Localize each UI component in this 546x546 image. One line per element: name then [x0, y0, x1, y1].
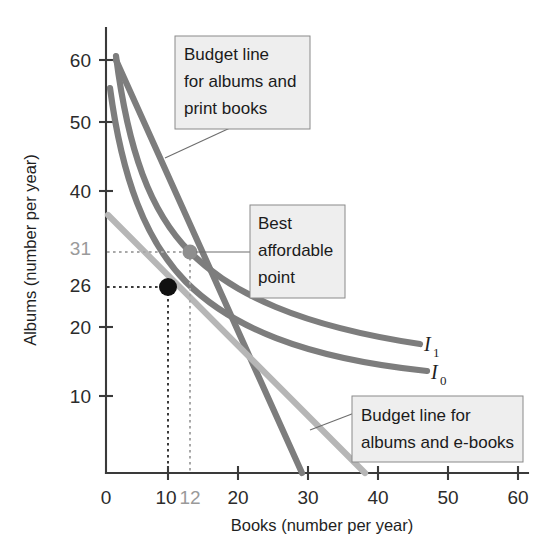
callout-best-line1: Best — [258, 214, 292, 233]
callout-budget-print-books: Budget line for albums and print books — [165, 36, 310, 158]
callout-ebook-line2: albums and e-books — [361, 433, 514, 452]
curve-label-i0-base: I — [430, 361, 439, 383]
x-tick-label-50: 50 — [437, 487, 458, 508]
callout-best-line3: point — [258, 268, 295, 287]
y-tick-labels: 60 50 40 31 26 20 10 — [70, 50, 91, 407]
x-tick-label-10: 10 — [155, 487, 176, 508]
y-axis-title: Albums (number per year) — [21, 154, 39, 346]
x-tick-labels: 0 10 12 20 30 40 50 60 — [101, 487, 529, 508]
curve-label-i1: I 1 — [423, 333, 440, 360]
callout-print-line2: for albums and — [184, 72, 296, 91]
curve-label-i0: I 0 — [430, 361, 447, 388]
callout-ebook-line1: Budget line for — [361, 406, 471, 425]
chart-svg: 60 50 40 31 26 20 10 0 10 12 20 30 40 50… — [0, 0, 546, 546]
x-tick-label-12: 12 — [179, 487, 200, 508]
callout-print-line1: Budget line — [184, 45, 269, 64]
y-tick-label-40: 40 — [70, 181, 91, 202]
best-affordable-point-dot — [183, 245, 198, 260]
optimum-point-dot — [159, 278, 177, 296]
x-axis-title: Books (number per year) — [231, 516, 414, 534]
callout-best-line2: affordable — [258, 241, 333, 260]
y-tick-label-26: 26 — [70, 275, 91, 296]
x-tick-label-60: 60 — [507, 487, 528, 508]
y-tick-label-60: 60 — [70, 50, 91, 71]
y-tick-label-20: 20 — [70, 317, 91, 338]
x-tick-label-30: 30 — [297, 487, 318, 508]
callout-print-line3: print books — [184, 99, 267, 118]
callout-print-leader — [165, 128, 230, 158]
x-tick-label-0: 0 — [101, 487, 112, 508]
curve-label-i1-base: I — [423, 333, 432, 355]
x-tick-label-20: 20 — [227, 487, 248, 508]
curve-label-i0-subscript: 0 — [440, 373, 447, 388]
y-tick-label-31: 31 — [70, 238, 91, 259]
y-tick-label-50: 50 — [70, 112, 91, 133]
figure-budget-lines-indifference-curves: 60 50 40 31 26 20 10 0 10 12 20 30 40 50… — [0, 0, 546, 546]
curve-label-i1-subscript: 1 — [433, 345, 440, 360]
y-tick-label-10: 10 — [70, 386, 91, 407]
x-tick-label-40: 40 — [367, 487, 388, 508]
